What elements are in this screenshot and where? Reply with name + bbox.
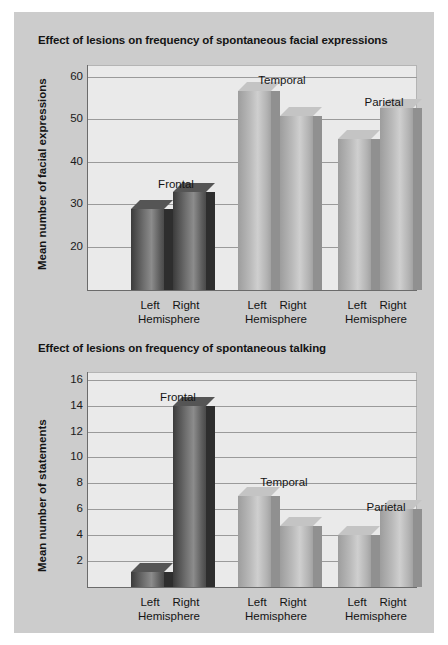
bar-top-face bbox=[338, 130, 380, 139]
y-tick-60: 60 bbox=[70, 71, 83, 83]
chart-title-top: Effect of lesions on frequency of sponta… bbox=[38, 34, 388, 46]
y-tick-10: 10 bbox=[70, 452, 83, 464]
bar-side-face bbox=[313, 116, 322, 290]
bar-front-face bbox=[173, 192, 206, 290]
gridline-60 bbox=[88, 77, 417, 78]
x-label-right: Right bbox=[167, 596, 205, 610]
bar-front-face bbox=[380, 509, 413, 587]
bar-front-face bbox=[338, 139, 371, 290]
x-label-hemisphere: Hemisphere bbox=[133, 610, 205, 624]
y-tick-40: 40 bbox=[70, 156, 83, 168]
bar-temporal-right bbox=[280, 526, 313, 587]
bar-side-face bbox=[413, 108, 422, 291]
bar-top-face bbox=[338, 526, 380, 535]
bar-front-face bbox=[238, 496, 271, 587]
chart-facial-expressions: Effect of lesions on frequency of sponta… bbox=[14, 12, 434, 327]
y-axis-label-bottom: Mean number of statements bbox=[36, 419, 48, 572]
region-label-parietal: Parietal bbox=[365, 96, 404, 108]
plot-area-bottom: 16 14 12 10 8 6 4 2 bbox=[87, 372, 417, 588]
x-group-parietal: LeftRight Hemisphere bbox=[340, 299, 412, 326]
region-label-parietal: Parietal bbox=[367, 501, 406, 513]
x-label-left: Left bbox=[340, 596, 374, 610]
bar-side-face bbox=[271, 91, 280, 291]
x-label-hemisphere: Hemisphere bbox=[340, 313, 412, 327]
x-label-right: Right bbox=[167, 299, 205, 313]
bar-temporal-left bbox=[238, 91, 271, 291]
bar-side-face bbox=[206, 406, 215, 587]
bar-top-face bbox=[131, 563, 173, 572]
x-label-right: Right bbox=[274, 299, 312, 313]
x-group-frontal: LeftRight Hemisphere bbox=[133, 299, 205, 326]
gridline-14 bbox=[88, 406, 417, 407]
y-tick-50: 50 bbox=[70, 114, 83, 126]
x-label-right: Right bbox=[374, 596, 412, 610]
chart-spontaneous-talking: Effect of lesions on frequency of sponta… bbox=[14, 327, 434, 633]
plot-area-top: 60 50 40 30 20 bbox=[87, 65, 417, 291]
bar-side-face bbox=[371, 535, 380, 587]
bar-side-face bbox=[313, 526, 322, 587]
bar-top-face bbox=[280, 107, 322, 116]
gridline-8 bbox=[88, 483, 417, 484]
bar-front-face bbox=[131, 572, 164, 588]
bar-top-face bbox=[238, 487, 280, 496]
y-tick-2: 2 bbox=[77, 555, 83, 567]
x-label-right: Right bbox=[274, 596, 312, 610]
gridline-10 bbox=[88, 457, 417, 458]
y-tick-8: 8 bbox=[77, 478, 83, 490]
y-axis-label-top: Mean number of facial expressions bbox=[36, 78, 48, 270]
bar-parietal-right bbox=[380, 108, 413, 291]
bar-front-face bbox=[380, 108, 413, 291]
y-tick-14: 14 bbox=[70, 400, 83, 412]
bar-parietal-left bbox=[338, 139, 371, 290]
bar-frontal-left bbox=[131, 209, 164, 290]
y-tick-16: 16 bbox=[70, 374, 83, 386]
x-group-temporal: LeftRight Hemisphere bbox=[240, 299, 312, 326]
x-label-left: Left bbox=[240, 596, 274, 610]
bar-front-face bbox=[131, 209, 164, 290]
bar-parietal-right bbox=[380, 509, 413, 587]
bar-front-face bbox=[338, 535, 371, 587]
bar-front-face bbox=[173, 406, 206, 587]
x-label-left: Left bbox=[133, 596, 167, 610]
bar-frontal-right bbox=[173, 406, 206, 587]
bar-side-face bbox=[413, 509, 422, 587]
x-group-temporal: LeftRight Hemisphere bbox=[240, 596, 312, 623]
bar-side-face bbox=[271, 496, 280, 587]
y-tick-4: 4 bbox=[77, 529, 83, 541]
bar-temporal-left bbox=[238, 496, 271, 587]
chart-title-bottom: Effect of lesions on frequency of sponta… bbox=[38, 342, 326, 354]
y-tick-6: 6 bbox=[77, 503, 83, 515]
x-label-right: Right bbox=[374, 299, 412, 313]
bar-front-face bbox=[280, 116, 313, 290]
bar-parietal-left bbox=[338, 535, 371, 587]
region-label-frontal: Frontal bbox=[160, 391, 196, 403]
x-label-left: Left bbox=[240, 299, 274, 313]
x-group-parietal: LeftRight Hemisphere bbox=[340, 596, 412, 623]
bar-front-face bbox=[238, 91, 271, 291]
y-tick-12: 12 bbox=[70, 426, 83, 438]
x-label-hemisphere: Hemisphere bbox=[340, 610, 412, 624]
figure-panel: Effect of lesions on frequency of sponta… bbox=[14, 12, 434, 633]
x-group-frontal: LeftRight Hemisphere bbox=[133, 596, 205, 623]
x-label-hemisphere: Hemisphere bbox=[240, 610, 312, 624]
region-label-frontal: Frontal bbox=[158, 178, 194, 190]
region-label-temporal: Temporal bbox=[260, 476, 307, 488]
bar-front-face bbox=[280, 526, 313, 587]
bar-side-face bbox=[164, 209, 173, 290]
x-label-hemisphere: Hemisphere bbox=[133, 313, 205, 327]
bar-temporal-right bbox=[280, 116, 313, 290]
bar-top-face bbox=[131, 200, 173, 209]
bar-frontal-left bbox=[131, 572, 164, 588]
bar-side-face bbox=[206, 192, 215, 290]
bar-side-face bbox=[371, 139, 380, 290]
region-label-temporal: Temporal bbox=[258, 74, 305, 86]
x-label-left: Left bbox=[133, 299, 167, 313]
gridline-16 bbox=[88, 380, 417, 381]
x-label-hemisphere: Hemisphere bbox=[240, 313, 312, 327]
bar-side-face bbox=[164, 572, 173, 588]
y-tick-30: 30 bbox=[70, 198, 83, 210]
y-tick-20: 20 bbox=[70, 241, 83, 253]
gridline-12 bbox=[88, 432, 417, 433]
x-label-left: Left bbox=[340, 299, 374, 313]
bar-frontal-right bbox=[173, 192, 206, 290]
